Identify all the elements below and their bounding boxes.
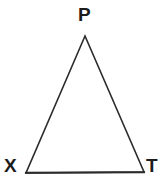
- vertex-label-p: P: [78, 5, 91, 24]
- vertex-label-x: X: [4, 156, 17, 175]
- triangle-shape: [26, 36, 144, 173]
- triangle-diagram: P X T: [0, 0, 166, 182]
- vertex-label-t: T: [146, 156, 158, 175]
- triangle-figure: [0, 0, 166, 182]
